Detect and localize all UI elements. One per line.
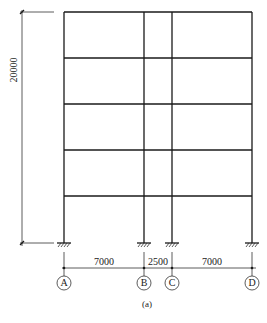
bay-dimension-label-cd: 7000 xyxy=(192,256,232,267)
fixed-supports xyxy=(57,243,259,247)
axis-label-c: C xyxy=(166,277,178,289)
axis-bubbles xyxy=(57,276,259,290)
fixed-support-icon xyxy=(137,243,151,247)
height-dimension-label: 20000 xyxy=(7,50,21,90)
axis-label-d: D xyxy=(246,277,258,289)
columns xyxy=(64,12,252,243)
frame-diagram xyxy=(0,0,267,323)
fixed-support-icon xyxy=(57,243,71,247)
beams xyxy=(64,12,252,196)
fixed-support-icon xyxy=(245,243,259,247)
figure-caption: (a) xyxy=(132,299,162,309)
axis-label-b: B xyxy=(138,277,150,289)
height-dimension xyxy=(20,10,54,246)
fixed-support-icon xyxy=(165,243,179,247)
bay-dimension-label-ab: 7000 xyxy=(84,256,124,267)
axis-label-a: A xyxy=(58,277,70,289)
bay-dimension-label-bc: 2500 xyxy=(142,256,174,267)
